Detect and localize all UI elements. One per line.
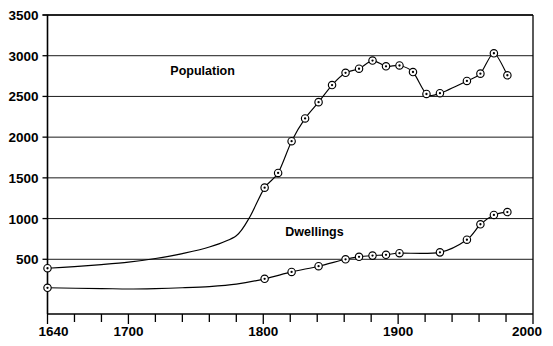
data-point-center (277, 172, 279, 174)
data-point-center (439, 92, 441, 94)
series-label-population: Population (170, 64, 235, 78)
data-point-center (290, 140, 292, 142)
y-tick-label-2000: 2000 (8, 130, 38, 145)
data-point-center (439, 251, 441, 253)
data-point-center (344, 72, 346, 74)
data-point-center (479, 72, 481, 74)
gridlines-group (48, 15, 534, 259)
x-tick-label-1700: 1700 (113, 324, 143, 339)
y-tick-label-3000: 3000 (8, 49, 38, 64)
data-point-center (398, 252, 400, 254)
data-point-center (358, 256, 360, 258)
y-tick-label-2500: 2500 (8, 89, 38, 104)
data-point-center (317, 101, 319, 103)
data-point-center (371, 59, 373, 61)
x-tick-label-2000: 2000 (512, 324, 542, 339)
x-tick-label-1640: 1640 (39, 324, 69, 339)
x-axis-ticks (48, 314, 534, 324)
data-point-center (385, 65, 387, 67)
series-annotations-group: PopulationDwellings (170, 64, 343, 238)
y-tick-label-3500: 3500 (8, 8, 38, 23)
data-point-center (46, 267, 48, 269)
chart-container: 350030002500200015001000500 164017001800… (0, 0, 553, 346)
line-chart: 350030002500200015001000500 164017001800… (0, 0, 553, 346)
data-point-center (466, 239, 468, 241)
y-tick-label-500: 500 (16, 252, 39, 267)
x-tick-label-1800: 1800 (248, 324, 278, 339)
series-line-population (48, 53, 508, 268)
y-tick-label-1500: 1500 (8, 171, 38, 186)
data-point-center (506, 74, 508, 76)
data-point-center (263, 186, 265, 188)
y-axis-tick-labels: 350030002500200015001000500 (8, 8, 38, 267)
data-point-center (304, 117, 306, 119)
x-tick-label-1900: 1900 (383, 324, 413, 339)
data-point-center (412, 71, 414, 73)
data-point-center (506, 211, 508, 213)
data-point-center (466, 80, 468, 82)
x-axis-tick-labels: 16401700180019002000 (39, 324, 543, 339)
data-point-center (425, 93, 427, 95)
y-tick-label-1000: 1000 (8, 212, 38, 227)
data-point-center (385, 254, 387, 256)
data-point-center (371, 254, 373, 256)
data-point-center (290, 271, 292, 273)
chart-frame (43, 15, 534, 315)
data-point-center (493, 52, 495, 54)
data-point-center (46, 287, 48, 289)
data-point-center (263, 278, 265, 280)
data-point-center (331, 84, 333, 86)
data-point-center (344, 258, 346, 260)
data-point-center (493, 214, 495, 216)
data-point-center (358, 68, 360, 70)
data-markers-group (44, 50, 511, 292)
series-label-dwellings: Dwellings (285, 225, 343, 239)
data-point-center (398, 64, 400, 66)
data-point-center (479, 223, 481, 225)
data-point-center (317, 265, 319, 267)
